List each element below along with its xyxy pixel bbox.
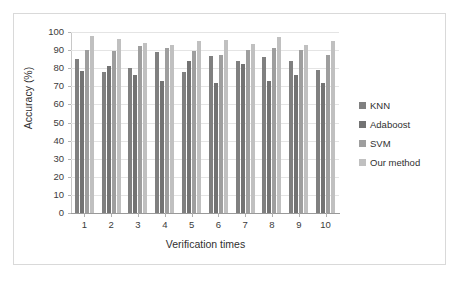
bar-our-method[interactable] (197, 41, 201, 213)
bar-our-method[interactable] (170, 45, 174, 213)
x-tick-mark (192, 213, 193, 217)
x-tick-mark (326, 213, 327, 217)
legend-label: Adaboost (370, 119, 410, 130)
chart-legend: KNNAdaboostSVMOur method (359, 96, 444, 172)
bar-knn[interactable] (102, 72, 106, 213)
bar-svm[interactable] (165, 48, 169, 213)
x-tick-mark (245, 213, 246, 217)
x-tick-label: 8 (257, 219, 287, 230)
bar-our-method[interactable] (224, 40, 228, 213)
bar-adaboost[interactable] (107, 66, 111, 214)
bar-group (312, 32, 339, 213)
bar-svm[interactable] (85, 50, 89, 213)
legend-label: Our method (370, 157, 420, 168)
bar-adaboost[interactable] (241, 64, 245, 213)
bar-svm[interactable] (192, 51, 196, 213)
x-tick-label: 5 (177, 219, 207, 230)
bar-svm[interactable] (138, 46, 142, 213)
bar-knn[interactable] (128, 68, 132, 213)
y-tick-label: 20 (22, 172, 64, 182)
bar-knn[interactable] (155, 52, 159, 213)
bar-group (151, 32, 178, 213)
bar-knn[interactable] (209, 56, 213, 213)
x-tick-label: 3 (123, 219, 153, 230)
bar-adaboost[interactable] (267, 81, 271, 213)
bar-svm[interactable] (299, 50, 303, 213)
x-tick-mark (111, 213, 112, 217)
bar-knn[interactable] (262, 57, 266, 213)
bar-group (232, 32, 259, 213)
y-tick-label: 0 (22, 208, 64, 218)
chart-frame: 0102030405060708090100 Accuracy (%) Veri… (13, 13, 446, 265)
x-tick-label: 4 (150, 219, 180, 230)
legend-swatch-icon (359, 159, 366, 166)
bar-adaboost[interactable] (160, 81, 164, 213)
bar-knn[interactable] (182, 72, 186, 213)
legend-item-our-method[interactable]: Our method (359, 153, 444, 172)
legend-item-adaboost[interactable]: Adaboost (359, 115, 444, 134)
x-tick-mark (218, 213, 219, 217)
x-tick-label: 2 (96, 219, 126, 230)
bar-our-method[interactable] (277, 37, 281, 213)
x-tick-label: 7 (230, 219, 260, 230)
bar-knn[interactable] (75, 59, 79, 213)
x-tick-label: 9 (284, 219, 314, 230)
bar-svm[interactable] (246, 50, 250, 213)
bar-group (285, 32, 312, 213)
x-tick-label: 6 (203, 219, 233, 230)
bar-group (125, 32, 152, 213)
bar-adaboost[interactable] (187, 61, 191, 213)
bar-adaboost[interactable] (133, 75, 137, 213)
bar-our-method[interactable] (331, 41, 335, 213)
x-tick-label: 1 (69, 219, 99, 230)
y-tick-label: 100 (22, 27, 64, 37)
bar-svm[interactable] (326, 55, 330, 213)
bar-adaboost[interactable] (214, 83, 218, 213)
bar-group (259, 32, 286, 213)
legend-swatch-icon (359, 102, 366, 109)
bar-svm[interactable] (219, 55, 223, 213)
legend-item-svm[interactable]: SVM (359, 134, 444, 153)
x-axis-title: Verification times (71, 238, 340, 250)
y-tick-label: 10 (22, 190, 64, 200)
x-tick-mark (299, 213, 300, 217)
bar-svm[interactable] (112, 51, 116, 213)
bar-knn[interactable] (316, 70, 320, 213)
x-tick-mark (272, 213, 273, 217)
bar-our-method[interactable] (143, 43, 147, 213)
bar-adaboost[interactable] (321, 83, 325, 213)
bar-svm[interactable] (272, 48, 276, 213)
bar-adaboost[interactable] (80, 71, 84, 213)
x-tick-mark (84, 213, 85, 217)
bar-our-method[interactable] (90, 36, 94, 213)
bar-group (71, 32, 98, 213)
x-tick-mark (138, 213, 139, 217)
bar-our-method[interactable] (251, 44, 255, 213)
bar-knn[interactable] (236, 61, 240, 213)
bar-our-method[interactable] (117, 39, 121, 213)
bar-group (205, 32, 232, 213)
bar-our-method[interactable] (304, 45, 308, 213)
bar-knn[interactable] (289, 61, 293, 213)
x-tick-mark (165, 213, 166, 217)
bar-group (178, 32, 205, 213)
bar-group (98, 32, 125, 213)
legend-swatch-icon (359, 121, 366, 128)
legend-swatch-icon (359, 140, 366, 147)
plot-area (71, 32, 339, 213)
legend-label: SVM (370, 138, 391, 149)
y-axis-title: Accuracy (%) (22, 48, 34, 148)
legend-label: KNN (370, 100, 390, 111)
x-tick-label: 10 (311, 219, 341, 230)
bar-adaboost[interactable] (294, 75, 298, 213)
y-tick-label: 30 (22, 154, 64, 164)
legend-item-knn[interactable]: KNN (359, 96, 444, 115)
